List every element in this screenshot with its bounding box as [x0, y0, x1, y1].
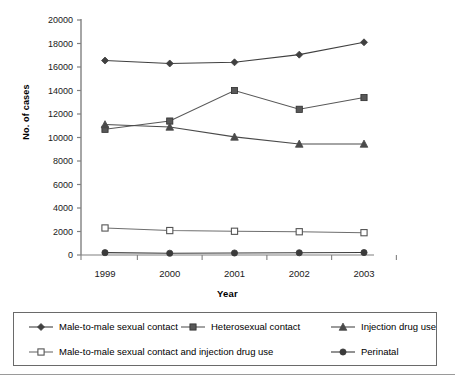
legend-label: Injection drug use [361, 321, 436, 333]
series-line [105, 91, 364, 130]
data-point-marker [38, 324, 45, 331]
x-tick-label: 1999 [94, 268, 115, 279]
y-tick-label: 4000 [53, 203, 73, 213]
x-tick-label: 2002 [289, 268, 310, 279]
legend-label: Male-to-male sexual contact and injectio… [59, 346, 273, 358]
series-4 [102, 225, 367, 236]
legend-entry: Heterosexual contact [180, 321, 330, 333]
data-point-marker [361, 39, 368, 46]
x-tick-label: 2003 [353, 268, 374, 279]
data-point-marker [38, 349, 44, 355]
x-tick-label: 2001 [224, 268, 245, 279]
data-point-marker [231, 250, 237, 256]
y-tick-label: 8000 [53, 156, 73, 166]
y-tick-label: 0 [68, 250, 73, 260]
data-point-marker [102, 225, 108, 231]
legend-entry: Male-to-male sexual contact and injectio… [28, 346, 338, 358]
legend-grid: Male-to-male sexual contactHeterosexual … [14, 313, 436, 365]
data-point-marker [167, 227, 173, 233]
y-tick-label: 16000 [48, 62, 73, 72]
data-point-marker [361, 230, 367, 236]
data-point-marker [296, 229, 302, 235]
data-point-marker [340, 349, 346, 355]
open-square-icon [28, 346, 54, 358]
y-axis-title: No. of cases [21, 65, 31, 159]
data-point-marker [361, 94, 367, 100]
axis-layer: 0200040006000800010000120001400016000180… [48, 15, 396, 279]
data-point-marker [231, 87, 237, 93]
filled-square-icon [180, 321, 206, 333]
data-point-marker [296, 51, 303, 58]
legend-entry: Injection drug use [330, 321, 450, 333]
y-tick-label: 2000 [53, 227, 73, 237]
data-point-marker [102, 250, 108, 256]
filled-triangle-icon [330, 321, 356, 333]
y-tick-label: 6000 [53, 180, 73, 190]
y-tick-label: 12000 [48, 109, 73, 119]
legend-entry: Perinatal [330, 346, 450, 358]
data-point-marker [166, 60, 173, 67]
data-point-marker [102, 57, 109, 64]
data-point-marker [167, 250, 173, 256]
y-tick-label: 18000 [48, 39, 73, 49]
legend-entry: Male-to-male sexual contact [28, 321, 183, 333]
filled-circle-icon [330, 346, 356, 358]
legend-label: Perinatal [361, 346, 399, 358]
data-point-marker [361, 249, 367, 255]
data-point-marker [296, 250, 302, 256]
data-point-marker [190, 324, 196, 330]
plot-area: 0200040006000800010000120001400016000180… [0, 0, 455, 300]
legend-label: Male-to-male sexual contact [59, 321, 178, 333]
x-tick-label: 2000 [159, 268, 180, 279]
filled-diamond-icon [28, 321, 54, 333]
data-point-marker [296, 106, 302, 112]
data-point-marker [231, 59, 238, 66]
y-tick-label: 20000 [48, 15, 73, 25]
y-tick-label: 14000 [48, 86, 73, 96]
series-layer [101, 39, 368, 257]
x-axis-title: Year [0, 288, 455, 299]
y-tick-label: 10000 [48, 133, 73, 143]
chart-legend: Male-to-male sexual contactHeterosexual … [13, 312, 437, 366]
data-point-marker [231, 228, 237, 234]
series-1 [102, 39, 368, 67]
page-bottom-rule [0, 374, 455, 375]
legend-label: Heterosexual contact [211, 321, 300, 333]
line-chart-svg: 0200040006000800010000120001400016000180… [0, 0, 455, 300]
chart-figure: 0200040006000800010000120001400016000180… [0, 0, 455, 386]
